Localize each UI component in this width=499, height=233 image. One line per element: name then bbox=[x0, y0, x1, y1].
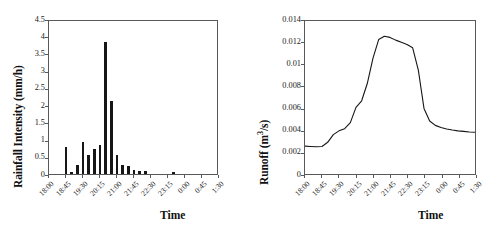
rainfall-bar bbox=[87, 155, 89, 174]
rainfall-x-tick-mark bbox=[201, 175, 202, 178]
rainfall-bar bbox=[99, 145, 101, 174]
runoff-y-axis-label-prefix: Runoff (m bbox=[258, 135, 270, 185]
rainfall-bar bbox=[104, 42, 106, 174]
runoff-plot-area bbox=[304, 20, 476, 175]
rainfall-x-tick-mark bbox=[184, 175, 185, 178]
runoff-y-tick-label: 0.002 bbox=[282, 148, 301, 156]
runoff-y-axis-label: Runoff (m3/s) bbox=[258, 120, 270, 185]
runoff-y-tick-label: 0.012 bbox=[282, 38, 301, 46]
rainfall-y-tick-label: 1.5 bbox=[35, 119, 45, 127]
rainfall-bar bbox=[133, 170, 135, 174]
runoff-y-tick-label: 0.014 bbox=[282, 16, 301, 24]
rainfall-y-tick-label: 3.5 bbox=[35, 50, 45, 58]
runoff-x-tick-mark bbox=[459, 175, 460, 178]
rainfall-x-tick-mark bbox=[99, 175, 100, 178]
runoff-x-tick-mark bbox=[356, 175, 357, 178]
runoff-x-tick-mark bbox=[390, 175, 391, 178]
runoff-y-tick-label: 0.006 bbox=[282, 104, 301, 112]
rainfall-x-tick-mark bbox=[116, 175, 117, 178]
rainfall-y-tick-label: 0.5 bbox=[35, 153, 45, 161]
runoff-x-axis-label: Time bbox=[418, 209, 443, 221]
runoff-x-tick-mark bbox=[373, 175, 374, 178]
runoff-y-tick-label: 0.008 bbox=[282, 82, 301, 90]
rainfall-x-tick-mark bbox=[167, 175, 168, 178]
runoff-x-tick-mark bbox=[424, 175, 425, 178]
runoff-y-axis-label-exponent: 3 bbox=[256, 131, 265, 135]
rainfall-bar bbox=[144, 171, 146, 174]
rainfall-bar bbox=[110, 101, 112, 174]
rainfall-bar bbox=[127, 166, 129, 174]
runoff-x-tick-mark bbox=[442, 175, 443, 178]
runoff-x-tick-mark bbox=[476, 175, 477, 178]
rainfall-bar bbox=[121, 165, 123, 174]
rainfall-x-tick-mark bbox=[48, 175, 49, 178]
rainfall-x-tick-mark bbox=[65, 175, 66, 178]
rainfall-bar bbox=[82, 142, 84, 174]
rainfall-bar bbox=[65, 147, 67, 174]
runoff-x-tick-mark bbox=[304, 175, 305, 178]
runoff-x-tick-mark bbox=[338, 175, 339, 178]
runoff-y-axis-label-suffix: /s) bbox=[258, 120, 270, 131]
rainfall-bar bbox=[93, 149, 95, 174]
rainfall-bar bbox=[76, 165, 78, 174]
rainfall-x-tick-mark bbox=[133, 175, 134, 178]
rainfall-bar bbox=[116, 155, 118, 174]
two-panel-figure: Rainfall Intensity (mm/h) 00.511.522.533… bbox=[0, 0, 499, 233]
runoff-x-tick-mark bbox=[407, 175, 408, 178]
runoff-hydrograph-line bbox=[305, 36, 475, 146]
rainfall-bar bbox=[172, 172, 174, 174]
rainfall-x-tick-mark bbox=[218, 175, 219, 178]
rainfall-y-tick-label: 4.5 bbox=[35, 16, 45, 24]
rainfall-x-tick-mark bbox=[150, 175, 151, 178]
rainfall-bar bbox=[70, 172, 72, 174]
runoff-chart-panel: Runoff (m3/s) 00.0020.0040.0060.0080.010… bbox=[250, 0, 499, 233]
runoff-line-series bbox=[305, 21, 475, 174]
rainfall-x-tick-mark bbox=[82, 175, 83, 178]
rainfall-bar bbox=[138, 171, 140, 174]
rainfall-x-axis-label: Time bbox=[160, 209, 185, 221]
runoff-y-tick-label: 0.01 bbox=[286, 60, 301, 68]
rainfall-y-axis-label: Rainfall Intensity (mm/h) bbox=[12, 65, 24, 188]
rainfall-plot-area bbox=[48, 20, 218, 175]
runoff-x-tick-mark bbox=[321, 175, 322, 178]
runoff-y-tick-label: 0.004 bbox=[282, 126, 301, 134]
rainfall-chart-panel: Rainfall Intensity (mm/h) 00.511.522.533… bbox=[0, 0, 249, 233]
rainfall-y-tick-label: 2.5 bbox=[35, 84, 45, 92]
